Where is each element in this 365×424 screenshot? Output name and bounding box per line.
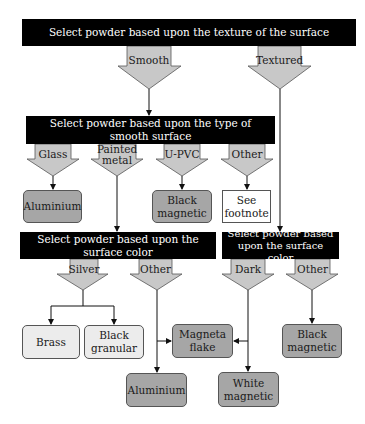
branch-silver-label: Silver [68, 263, 100, 275]
powder-selection-flowchart: Select powder based upon the texture of … [0, 0, 365, 424]
result-white-magnetic: White magnetic [218, 372, 279, 407]
result-other-aluminium: Aluminium [126, 373, 187, 407]
branch-glass-label: Glass [35, 148, 71, 160]
result-brass: Brass [22, 325, 80, 359]
result-black-granular: Black granular [84, 325, 144, 359]
result-textured-black-magnetic: Black magnetic [282, 324, 342, 358]
smooth-arrow-icon [118, 46, 181, 89]
decision-textured-color: Select powder based upon the surface col… [222, 232, 339, 259]
decision-smooth-color: Select powder based upon the surface col… [20, 232, 216, 259]
branch-painted-metal-label: Painted metal [97, 144, 137, 166]
result-magneta-flake: Magneta flake [172, 324, 233, 358]
result-other-see-footnote: See footnote [222, 190, 271, 223]
branch-upvc-label: U-PVC [162, 148, 202, 160]
branch-dark-label: Dark [231, 263, 265, 275]
decision-texture: Select powder based upon the texture of … [22, 19, 356, 46]
decision-smooth-type: Select powder based upon the type of smo… [26, 116, 275, 144]
branch-textured-label: Textured [256, 54, 303, 66]
textured-arrow-icon [248, 46, 311, 89]
branch-other-smooth-label: Other [229, 148, 265, 160]
branch-other-color-label: Other [139, 263, 172, 275]
branch-other-textured-label: Other [295, 263, 330, 275]
result-upvc-black-magnetic: Black magnetic [152, 190, 212, 223]
branch-smooth-label: Smooth [127, 54, 171, 66]
result-glass-aluminium: Aluminium [23, 190, 82, 223]
